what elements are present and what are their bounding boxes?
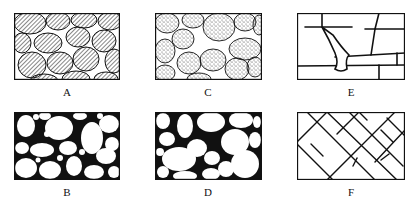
panel-c: C [155,13,262,80]
panel-f: F [297,112,405,180]
panel-label-f: F [341,186,361,198]
stippled-grains-diagram [155,13,262,80]
diagonal-fractures-diagram [297,112,405,180]
panel-label-b: B [57,186,77,198]
panel-a: A [14,13,120,80]
panel-label-d: D [198,186,218,198]
panel-label-e: E [341,86,361,98]
panel-label-a: A [57,86,77,98]
panel-b: B [14,112,120,180]
sorted-grains-diagram [155,112,262,180]
mixed-grains-diagram [14,112,120,180]
fractured-blocks-diagram [297,13,405,80]
panel-e: E [297,13,405,80]
hatched-grains-diagram [14,13,120,80]
panel-d: D [155,112,262,180]
panel-label-c: C [198,86,218,98]
